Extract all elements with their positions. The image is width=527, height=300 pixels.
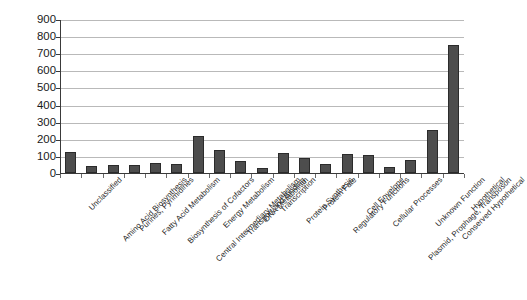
x-axis-tick bbox=[358, 174, 359, 178]
bar bbox=[363, 155, 374, 173]
bar bbox=[193, 136, 204, 173]
bar bbox=[405, 160, 416, 173]
bar bbox=[214, 150, 225, 173]
x-axis-tick bbox=[379, 174, 380, 178]
x-axis-tick bbox=[209, 174, 210, 178]
x-axis-tick bbox=[294, 174, 295, 178]
x-axis-line bbox=[60, 173, 464, 174]
y-axis-tick bbox=[56, 37, 60, 38]
y-axis-tick bbox=[56, 71, 60, 72]
bar bbox=[342, 154, 353, 173]
x-axis-tick bbox=[336, 174, 337, 178]
bar bbox=[299, 158, 310, 173]
x-axis-tick bbox=[124, 174, 125, 178]
x-axis-tick bbox=[145, 174, 146, 178]
bars-layer bbox=[60, 20, 464, 174]
bar bbox=[235, 161, 246, 173]
bar bbox=[65, 152, 76, 173]
x-axis-tick bbox=[251, 174, 252, 178]
y-axis-tick bbox=[56, 106, 60, 107]
y-axis-tick bbox=[56, 20, 60, 21]
bar bbox=[150, 163, 161, 173]
x-axis-category-label: Protein Fate bbox=[321, 176, 357, 212]
x-axis-tick bbox=[464, 174, 465, 178]
x-axis-tick bbox=[103, 174, 104, 178]
bar bbox=[278, 153, 289, 173]
y-axis-tick-label: 800 bbox=[37, 31, 56, 42]
x-axis-tick bbox=[421, 174, 422, 178]
x-axis-category-label: Unclassified bbox=[87, 176, 123, 212]
x-axis-category-label: Cell Envelope bbox=[365, 176, 405, 216]
y-axis-tick-label: 900 bbox=[37, 14, 56, 25]
x-axis-tick bbox=[400, 174, 401, 178]
bar bbox=[427, 130, 438, 173]
x-axis-tick bbox=[81, 174, 82, 178]
y-axis-tick bbox=[56, 174, 60, 175]
y-axis-tick-label: 100 bbox=[37, 151, 56, 162]
x-axis-tick bbox=[188, 174, 189, 178]
x-axis-tick bbox=[315, 174, 316, 178]
x-axis-category-labels: UnclassifiedAmino Acid BiosynthesisPurin… bbox=[60, 176, 472, 300]
y-axis-tick-labels: 9008007006005004003002001000 bbox=[16, 20, 56, 174]
y-axis-tick-label: 600 bbox=[37, 65, 56, 76]
y-axis-line bbox=[60, 20, 61, 174]
y-axis-tick-label: 700 bbox=[37, 48, 56, 59]
y-axis-tick bbox=[56, 123, 60, 124]
y-axis-tick bbox=[56, 140, 60, 141]
y-axis-tick-label: 200 bbox=[37, 134, 56, 145]
x-axis-tick bbox=[60, 174, 61, 178]
x-axis-tick bbox=[230, 174, 231, 178]
y-axis-tick bbox=[56, 157, 60, 158]
y-axis-tick-label: 300 bbox=[37, 117, 56, 128]
bar bbox=[448, 45, 459, 173]
y-axis-tick-label: 400 bbox=[37, 100, 56, 111]
y-axis-tick bbox=[56, 54, 60, 55]
x-axis-tick bbox=[273, 174, 274, 178]
x-axis-tick bbox=[166, 174, 167, 178]
x-axis-tick bbox=[443, 174, 444, 178]
plot-area bbox=[60, 20, 464, 174]
y-axis-tick bbox=[56, 88, 60, 89]
y-axis-tick-label: 500 bbox=[37, 82, 56, 93]
